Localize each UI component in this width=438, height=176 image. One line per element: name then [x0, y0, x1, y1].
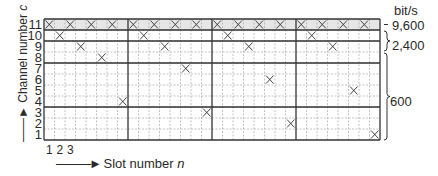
allocation-grid — [0, 0, 438, 176]
rate-label-2400: 2,400 — [392, 39, 425, 52]
rate-label-600: 600 — [390, 95, 412, 108]
column-label: 3 — [67, 143, 74, 157]
rate-label-9600: 9,600 — [392, 19, 425, 32]
x-arrow-icon: ———► — [56, 156, 100, 171]
column-label: 1 — [46, 143, 53, 157]
channel-slot-diagram: ——► Channel number c 1110987654321 123 —… — [0, 0, 438, 176]
x-axis-label: ———► Slot number n — [56, 157, 184, 170]
column-label: 2 — [57, 143, 64, 157]
rate-unit-label: bit/s — [394, 4, 418, 17]
row-label: 1 — [22, 129, 42, 140]
